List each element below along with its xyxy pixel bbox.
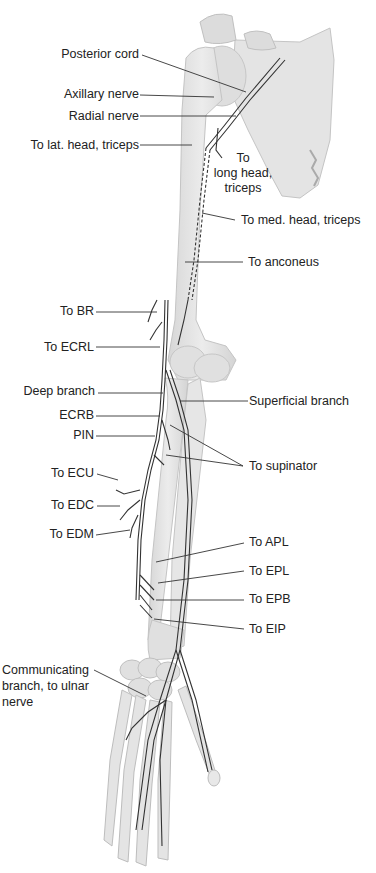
label-to-supinator: To supinator <box>249 459 317 474</box>
label-line: To <box>208 151 278 166</box>
label-line: triceps <box>208 181 278 196</box>
radial-nerve-diagram: Posterior cord Axillary nerve Radial ner… <box>0 0 376 873</box>
anatomy-illustration <box>0 0 376 873</box>
label-to-lat-head-triceps: To lat. head, triceps <box>31 138 139 153</box>
label-to-long-head-triceps: To long head, triceps <box>208 151 278 196</box>
label-line: nerve <box>2 694 102 710</box>
forearm-bones <box>148 378 206 660</box>
label-deep-branch: Deep branch <box>23 384 95 399</box>
label-line: Communicating <box>2 662 102 678</box>
label-to-eip: To EIP <box>249 622 286 637</box>
label-communicating-branch: Communicating branch, to ulnar nerve <box>2 662 102 710</box>
label-axillary-nerve: Axillary nerve <box>64 87 139 102</box>
label-to-edc: To EDC <box>51 498 94 513</box>
label-to-edm: To EDM <box>50 527 94 542</box>
label-to-med-head-triceps: To med. head, triceps <box>241 213 361 228</box>
label-to-epb: To EPB <box>249 592 291 607</box>
label-to-ecrl: To ECRL <box>44 340 94 355</box>
label-pin: PIN <box>73 428 94 443</box>
label-to-ecu: To ECU <box>51 466 94 481</box>
label-superficial-branch: Superficial branch <box>249 394 349 409</box>
label-to-br: To BR <box>60 304 94 319</box>
label-to-epl: To EPL <box>249 564 289 579</box>
label-radial-nerve: Radial nerve <box>69 109 139 124</box>
label-ecrb: ECRB <box>59 408 94 423</box>
label-to-apl: To APL <box>249 535 289 550</box>
label-line: long head, <box>208 166 278 181</box>
label-line: branch, to ulnar <box>2 678 102 694</box>
label-to-anconeus: To anconeus <box>248 255 319 270</box>
label-posterior-cord: Posterior cord <box>61 47 139 62</box>
